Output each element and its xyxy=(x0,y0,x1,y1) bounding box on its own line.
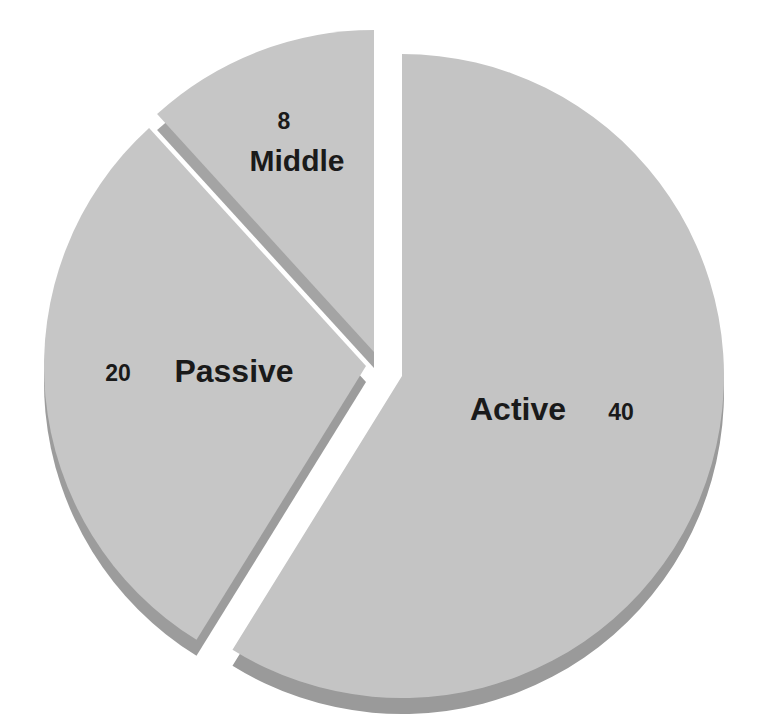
slice-value-middle: 8 xyxy=(278,108,291,134)
slice-label-active: Active xyxy=(470,391,566,427)
slice-label-middle: Middle xyxy=(250,144,345,177)
slice-value-passive: 20 xyxy=(105,360,131,386)
slice-value-active: 40 xyxy=(608,399,634,425)
slice-label-passive: Passive xyxy=(174,353,293,389)
pie-slices xyxy=(44,30,724,714)
pie-chart: 8 Middle 20 Passive Active 40 xyxy=(0,0,761,720)
